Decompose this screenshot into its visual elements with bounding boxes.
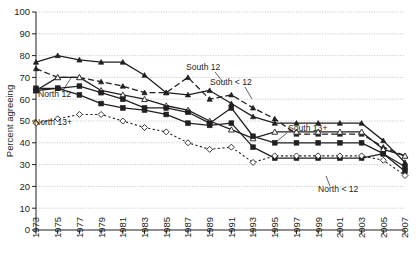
x-tick-label-1979: 1979 — [96, 217, 107, 238]
y-tick-label-40: 40 — [19, 137, 30, 148]
annotation-leader-south-13plus — [277, 133, 287, 141]
x-tick-labels: 1973197519771979198119831985198719891991… — [30, 217, 410, 238]
series-marker — [229, 101, 234, 106]
series-marker — [76, 111, 82, 117]
x-tick-label-1993: 1993 — [247, 217, 258, 238]
annotation-north-12: North 12 — [38, 89, 71, 99]
annotation-north-13plus: North 13+ — [34, 117, 72, 127]
series-marker — [142, 73, 147, 78]
series-marker — [142, 125, 148, 131]
series-south-13 — [33, 75, 408, 159]
x-tick-label-1981: 1981 — [117, 217, 128, 238]
x-tick-label-1997: 1997 — [291, 217, 302, 238]
y-tick-label-10: 10 — [19, 203, 30, 214]
y-tick-label-50: 50 — [19, 115, 30, 126]
series-line — [36, 86, 405, 167]
series-marker — [33, 66, 38, 71]
y-tick-label-90: 90 — [19, 28, 30, 39]
series-line — [36, 56, 405, 163]
annotation-south-12: South 12 — [186, 62, 221, 72]
y-tick-labels: 0102030405060708090100 — [14, 6, 30, 235]
series-marker — [251, 134, 256, 139]
series-marker — [337, 140, 342, 145]
annotation-leader-south-lt12 — [245, 87, 252, 99]
series-marker — [98, 111, 104, 117]
y-tick-label-20: 20 — [19, 181, 30, 192]
series-marker — [272, 140, 277, 145]
x-tick-label-1991: 1991 — [226, 217, 237, 238]
series-annotations: South 12South < 12South 13+North 12North… — [34, 62, 359, 194]
x-tick-label-2003: 2003 — [356, 217, 367, 238]
series-marker — [186, 110, 191, 115]
x-tick-label-1987: 1987 — [182, 217, 193, 238]
series-marker — [359, 140, 364, 145]
series-marker — [142, 108, 147, 113]
annotation-south-lt12: South < 12 — [210, 77, 252, 87]
series-marker — [120, 84, 125, 89]
series-marker — [99, 90, 104, 95]
x-tick-label-1983: 1983 — [139, 217, 150, 238]
series-marker — [77, 92, 82, 97]
series-marker — [186, 121, 191, 126]
series-marker — [207, 123, 212, 128]
annotation-south-13plus: South 13+ — [288, 123, 327, 133]
series-marker — [77, 84, 82, 89]
x-tick-label-1973: 1973 — [30, 217, 41, 238]
gridlines — [36, 12, 405, 208]
series-marker — [185, 140, 191, 146]
series-marker — [229, 121, 234, 126]
y-tick-label-80: 80 — [19, 50, 30, 61]
series-north-13 — [33, 111, 408, 178]
series-marker — [228, 144, 234, 150]
x-tick-label-1999: 1999 — [313, 217, 324, 238]
figure-panel: 0102030405060708090100 19731975197719791… — [0, 0, 416, 272]
y-axis-label: Percent agreeing — [4, 85, 15, 157]
series-marker — [229, 106, 234, 111]
y-tick-label-0: 0 — [25, 224, 30, 235]
series-marker — [380, 157, 386, 163]
x-tick-label-1975: 1975 — [52, 217, 63, 238]
series-marker — [99, 101, 104, 106]
series-marker — [381, 151, 386, 156]
series-south-12 — [33, 53, 407, 165]
series-marker — [250, 114, 255, 119]
x-tick-label-1977: 1977 — [74, 217, 85, 238]
annotation-north-lt12: North < 12 — [318, 184, 359, 194]
x-tick-label-1989: 1989 — [204, 217, 215, 238]
data-series-group — [33, 53, 408, 179]
series-marker — [120, 106, 125, 111]
series-marker — [250, 105, 255, 110]
series-line — [36, 88, 405, 171]
y-tick-label-70: 70 — [19, 72, 30, 83]
series-marker — [164, 112, 169, 117]
series-marker — [294, 140, 299, 145]
series-marker — [207, 146, 213, 152]
line-chart: 0102030405060708090100 19731975197719791… — [0, 0, 416, 272]
x-tick-label-2001: 2001 — [334, 217, 345, 238]
x-tick-label-1985: 1985 — [161, 217, 172, 238]
series-marker — [316, 140, 321, 145]
x-tick-label-2007: 2007 — [399, 217, 410, 238]
y-tick-label-60: 60 — [19, 94, 30, 105]
x-tick-label-2005: 2005 — [378, 217, 389, 238]
x-tick-label-1995: 1995 — [269, 217, 280, 238]
series-marker — [164, 106, 169, 111]
series-marker — [120, 118, 126, 124]
y-tick-label-100: 100 — [14, 6, 30, 17]
series-marker — [120, 97, 125, 102]
series-marker — [251, 145, 256, 150]
series-marker — [163, 129, 169, 135]
y-tick-label-30: 30 — [19, 159, 30, 170]
